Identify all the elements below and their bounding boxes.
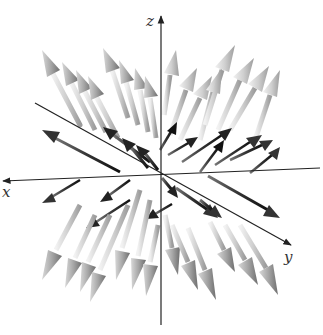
y-axis-label: y <box>283 248 293 266</box>
arrow-icon <box>200 140 224 172</box>
arrow-icon <box>100 180 130 202</box>
arrow-icon <box>168 137 198 155</box>
arrow-icon <box>164 50 179 115</box>
arrow-icon <box>210 222 235 272</box>
vector-field-diagram: z x y <box>0 0 323 335</box>
arrow-icon <box>208 176 280 218</box>
arrow-icon <box>160 122 177 150</box>
z-axis-label: z <box>145 12 154 30</box>
lower-arrows <box>42 190 278 302</box>
x-axis-label: x <box>2 183 11 201</box>
arrow-icon <box>165 215 180 275</box>
arrow-icon <box>42 180 80 203</box>
arrow-icon <box>240 225 278 295</box>
y-axis <box>35 103 291 245</box>
